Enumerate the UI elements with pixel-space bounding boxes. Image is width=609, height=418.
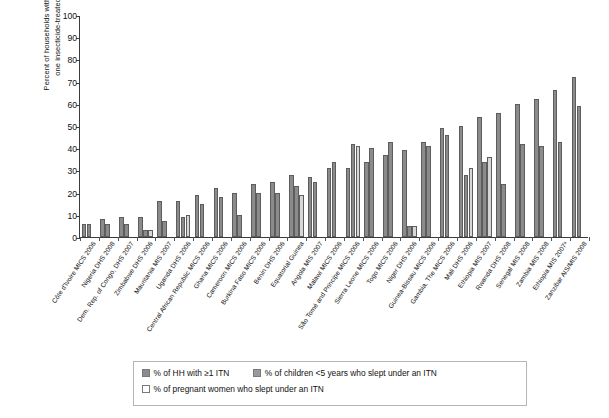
y-axis-tick-100: 100	[63, 11, 77, 21]
bar-group	[382, 16, 401, 237]
bar-children	[294, 186, 299, 237]
bar-children	[407, 226, 412, 237]
y-axis-tickmark-90	[76, 38, 80, 39]
bar-hh	[440, 128, 445, 237]
bar-group	[193, 16, 212, 237]
bar-children	[256, 193, 261, 237]
bar-hh	[157, 201, 162, 237]
bar-children	[332, 162, 337, 237]
bar-children	[200, 204, 205, 237]
bar-group	[118, 16, 137, 237]
bar-group	[137, 16, 156, 237]
bar-hh	[496, 113, 501, 237]
bar-group	[174, 16, 193, 237]
bar-children	[464, 175, 469, 237]
y-axis-tick-labels: 0102030405060708090100	[53, 10, 77, 244]
bar-group	[551, 16, 570, 237]
legend-item-children: % of children <5 years who slept under a…	[253, 368, 437, 378]
x-axis-tick-labels: Côte d'Ivoire MICS 2006Nigeria DHS 2008D…	[79, 240, 588, 350]
bar-hh	[364, 162, 369, 237]
legend-row-2: % of pregnant women who slept under an I…	[142, 384, 518, 394]
bar-hh	[308, 177, 313, 237]
bar-hh	[270, 182, 275, 238]
bar-hh	[138, 217, 143, 237]
bar-children	[388, 142, 393, 237]
bar-group	[438, 16, 457, 237]
bar-children	[105, 224, 110, 237]
bar-hh	[214, 188, 219, 237]
y-axis-tickmark-50	[76, 127, 80, 128]
bar-children	[237, 215, 242, 237]
bar-group	[514, 16, 533, 237]
bar-children	[181, 217, 186, 237]
bar-group	[99, 16, 118, 237]
bar-children	[445, 135, 450, 237]
x-axis-label: Uganda DHS 2006	[154, 240, 191, 290]
bar-group	[250, 16, 269, 237]
bar-group	[325, 16, 344, 237]
bar-pregnant	[148, 230, 153, 237]
bar-group	[212, 16, 231, 237]
bar-hh	[572, 77, 577, 237]
bar-group	[363, 16, 382, 237]
x-axis-tickmark	[589, 237, 590, 241]
bar-pregnant	[412, 226, 417, 237]
bar-hh	[346, 168, 351, 237]
legend-swatch-hh-icon	[142, 369, 150, 377]
y-axis-tickmark-80	[76, 60, 80, 61]
bar-hh	[119, 217, 124, 237]
bar-pregnant	[356, 146, 361, 237]
bar-children	[501, 184, 506, 237]
bar-hh	[459, 126, 464, 237]
bar-hh	[232, 193, 237, 237]
bar-children	[558, 142, 563, 237]
legend-label-pregnant: % of pregnant women who slept under an I…	[154, 384, 324, 394]
bar-hh	[553, 90, 558, 237]
bar-hh	[515, 104, 520, 237]
y-axis-tickmark-100	[76, 16, 80, 17]
bar-group	[231, 16, 250, 237]
bar-pregnant	[299, 195, 304, 237]
y-axis-tickmark-10	[76, 216, 80, 217]
plot-area	[79, 16, 588, 238]
bar-group	[400, 16, 419, 237]
bar-children	[482, 162, 487, 237]
y-axis-tickmark-60	[76, 105, 80, 106]
legend-swatch-children-icon	[253, 369, 261, 377]
bar-pregnant	[186, 215, 191, 237]
bar-children	[275, 193, 280, 237]
bar-children	[87, 224, 92, 237]
bar-hh	[195, 195, 200, 237]
bar-group	[269, 16, 288, 237]
bar-group	[532, 16, 551, 237]
bar-hh	[383, 155, 388, 237]
bar-children	[539, 146, 544, 237]
bar-groups	[80, 16, 588, 237]
bar-hh	[327, 168, 332, 237]
bar-hh	[534, 99, 539, 237]
bar-group	[306, 16, 325, 237]
legend-swatch-pregnant-icon	[142, 385, 150, 393]
bar-group	[287, 16, 306, 237]
y-axis-tickmark-20	[76, 194, 80, 195]
bar-group	[570, 16, 589, 237]
bar-children	[162, 221, 167, 237]
bar-group	[419, 16, 438, 237]
bar-group	[476, 16, 495, 237]
bar-group	[80, 16, 99, 237]
bar-hh	[176, 201, 181, 237]
legend-label-hh: % of HH with ≥1 ITN	[154, 368, 230, 378]
chart-legend: % of HH with ≥1 ITN % of children <5 yea…	[133, 361, 527, 406]
y-axis-tickmark-30	[76, 171, 80, 172]
bar-pregnant	[469, 168, 474, 237]
bar-hh	[402, 150, 407, 237]
bar-children	[351, 144, 356, 237]
bar-children	[124, 224, 129, 237]
chart-figure: Percent of households with at least one …	[0, 0, 609, 418]
bar-children	[369, 148, 374, 237]
bar-hh	[251, 184, 256, 237]
legend-item-pregnant: % of pregnant women who slept under an I…	[142, 384, 324, 394]
bar-hh	[289, 175, 294, 237]
bar-group	[495, 16, 514, 237]
legend-label-children: % of children <5 years who slept under a…	[265, 368, 437, 378]
